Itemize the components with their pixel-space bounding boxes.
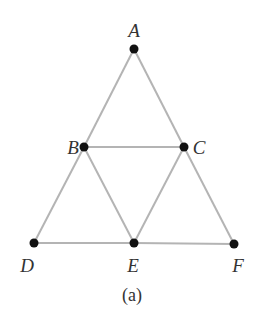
vertex-D	[30, 239, 39, 248]
edge-E-F	[134, 243, 234, 244]
vertex-B	[80, 143, 89, 152]
label-F: F	[231, 255, 244, 276]
label-D: D	[19, 255, 34, 276]
edge-B-E	[84, 147, 134, 243]
label-C: C	[193, 137, 206, 158]
label-E: E	[126, 255, 139, 276]
figure-caption: (a)	[122, 285, 142, 306]
vertex-F	[230, 240, 239, 249]
triangle-graph-diagram: A B C D E F (a)	[0, 0, 265, 324]
vertex-C	[180, 143, 189, 152]
edge-C-F	[184, 147, 234, 244]
vertex-E	[130, 239, 139, 248]
label-B: B	[67, 137, 79, 158]
edge-A-C	[134, 49, 184, 147]
label-A: A	[126, 20, 140, 41]
edge-C-E	[134, 147, 184, 243]
edge-A-B	[84, 49, 134, 147]
vertex-A	[130, 45, 139, 54]
edge-B-D	[34, 147, 84, 243]
